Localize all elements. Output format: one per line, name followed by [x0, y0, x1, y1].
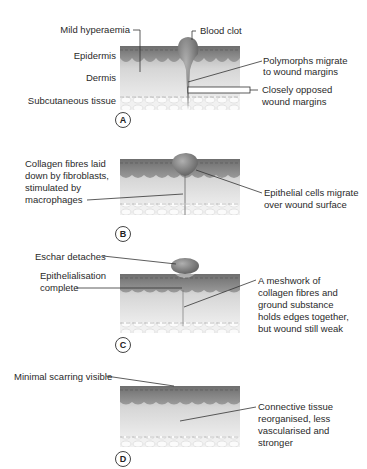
label-meshwork-line3: ground substance [258, 299, 334, 311]
label-connective-line2: reorganised, less [258, 413, 330, 425]
label-epithelialisation-line1: Epithelialisation [40, 270, 106, 282]
label-opposed-line1: Closely opposed [262, 84, 332, 96]
label-eschar: Eschar detaches [35, 251, 106, 263]
label-polymorphs-line2: to wound margins [263, 66, 338, 78]
panel-a-skin [120, 37, 240, 110]
label-collagen-line3: stimulated by [25, 182, 81, 194]
label-mild-hyperaemia: Mild hyperaemia [40, 24, 130, 36]
label-connective-line1: Connective tissue [258, 401, 333, 413]
label-opposed-line2: wound margins [262, 96, 326, 108]
panel-letter-a: A [115, 112, 131, 128]
label-minimal-scarring: Minimal scarring visible [14, 371, 112, 383]
panel-b-skin [120, 153, 240, 215]
label-epithelialisation-line2: complete [40, 282, 79, 294]
label-meshwork-line2: collagen fibres and [258, 287, 338, 299]
label-dermis: Dermis [40, 72, 116, 84]
panel-letter-c: C [115, 337, 131, 353]
label-meshwork-line5: but wound still weak [258, 323, 343, 335]
label-epithelial-line1: Epithelial cells migrate [264, 187, 359, 199]
eschar [171, 258, 199, 274]
label-connective-line3: vascularised and [258, 425, 329, 437]
label-meshwork-line4: holds edges together, [258, 311, 349, 323]
panel-d-skin [120, 386, 240, 447]
label-collagen-line1: Collagen fibres laid [25, 158, 106, 170]
panel-letter-b: B [115, 226, 131, 242]
label-polymorphs-line1: Polymorphs migrate [263, 55, 347, 67]
label-epithelial-line2: over wound surface [264, 199, 347, 211]
label-connective-line4: stronger [258, 437, 293, 449]
label-epidermis: Epidermis [40, 50, 116, 62]
label-collagen-line2: down by fibroblasts, [25, 170, 109, 182]
label-meshwork-line1: A meshwork of [258, 275, 320, 287]
label-blood-clot: Blood clot [200, 25, 242, 37]
panel-c-skin [120, 258, 240, 333]
label-subcutaneous-tissue: Subcutaneous tissue [20, 95, 116, 107]
label-collagen-line4: macrophages [25, 194, 83, 206]
panel-letter-d: D [115, 451, 131, 467]
